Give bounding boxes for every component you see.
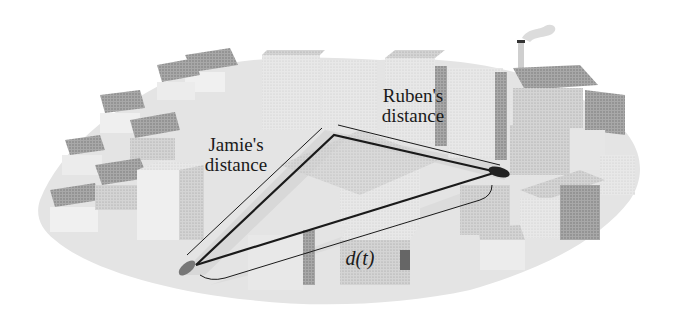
separation-label: d(t) bbox=[340, 248, 380, 268]
jamie-distance-label: Jamie's distance bbox=[196, 135, 276, 175]
factory bbox=[513, 25, 625, 135]
ruben-distance-label: Ruben's distance bbox=[373, 86, 453, 126]
city-diagram: Jamie's distance Ruben's distance d(t) bbox=[0, 0, 675, 322]
city-illustration bbox=[0, 0, 675, 322]
